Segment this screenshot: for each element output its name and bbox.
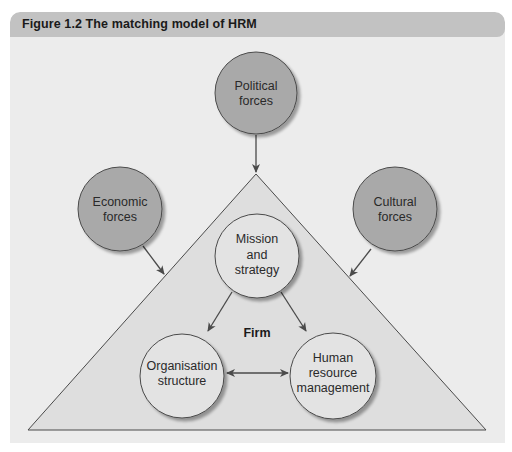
node-cultural-forces: Cultural forces <box>353 167 437 251</box>
economic-line-1: Economic <box>93 195 148 209</box>
arrow-cultural-to-firm <box>350 249 371 276</box>
cultural-line-1: Cultural <box>373 195 416 209</box>
structure-line-1: Organisation <box>147 359 218 373</box>
hrm-line-3: management <box>297 381 370 395</box>
matching-model-diagram: Political forces Economic forces Cultura… <box>0 0 512 452</box>
node-mission-and-strategy: Mission and strategy <box>215 214 299 298</box>
node-political-forces: Political forces <box>215 52 297 134</box>
mission-line-3: strategy <box>235 263 280 277</box>
economic-line-2: forces <box>103 210 137 224</box>
node-economic-forces: Economic forces <box>78 167 162 251</box>
mission-line-1: Mission <box>236 232 278 246</box>
arrow-economic-to-firm <box>143 246 164 274</box>
political-line-1: Political <box>234 79 277 93</box>
hrm-line-2: resource <box>309 366 358 380</box>
cultural-line-2: forces <box>378 210 412 224</box>
mission-line-2: and <box>247 248 268 262</box>
political-line-2: forces <box>239 94 273 108</box>
structure-line-2: structure <box>158 374 207 388</box>
node-organisation-structure: Organisation structure <box>140 334 224 418</box>
hrm-line-1: Human <box>313 351 353 365</box>
node-human-resource-management: Human resource management <box>290 333 376 419</box>
firm-label: Firm <box>243 326 270 340</box>
